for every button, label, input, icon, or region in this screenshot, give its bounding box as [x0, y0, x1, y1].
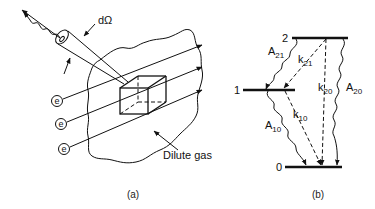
transition-k10-label: k10	[293, 108, 308, 123]
diagram-canvas: dΩ e e e	[0, 0, 375, 209]
panel-a: dΩ e e e	[22, 10, 212, 200]
gas-cloud-outline	[87, 29, 202, 162]
photon-direction-arrow	[22, 10, 60, 38]
electron-label: e	[58, 119, 63, 129]
transition-k20-arrow	[322, 39, 326, 165]
solid-angle-label: dΩ	[98, 14, 112, 26]
transition-A20-arrow	[333, 39, 345, 165]
caption-b: (b)	[312, 189, 324, 200]
cone-edge-pointer	[64, 58, 70, 74]
electron-beam-2: e	[56, 67, 203, 130]
level-2-label: 2	[282, 32, 288, 44]
emission-cone	[53, 28, 128, 84]
transition-A21-label: A21	[268, 45, 285, 60]
level-0-label: 0	[276, 161, 282, 173]
electron-label: e	[61, 144, 66, 154]
level-1-label: 1	[234, 84, 240, 96]
transition-k21-label: k21	[298, 53, 313, 68]
transition-k20-label: k20	[318, 81, 333, 96]
electron-label: e	[54, 96, 59, 106]
dilute-gas-label: Dilute gas	[163, 149, 212, 161]
panel-b: 2 1 0 A21 k21 k20 A20 A10 k10 (b)	[234, 32, 363, 200]
solid-angle-pointer	[84, 24, 95, 36]
transition-k10-arrow	[285, 91, 321, 165]
electron-beam-3: e	[59, 90, 203, 155]
transition-A10-label: A10	[265, 119, 282, 134]
transition-A20-label: A20	[346, 81, 363, 96]
caption-a: (a)	[127, 189, 139, 200]
